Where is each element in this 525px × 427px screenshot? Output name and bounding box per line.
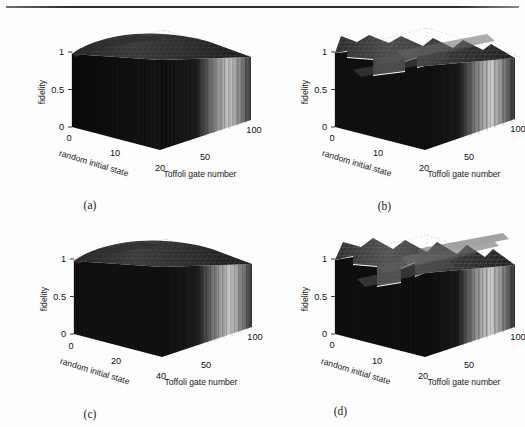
- panel-b-zlabel: fidelity: [300, 79, 310, 104]
- panel-d-tag: (d): [217, 405, 465, 417]
- panel-c-zlabel: fidelity: [39, 286, 49, 311]
- panel-b-bar-block: [335, 34, 515, 150]
- figure-panel-grid: 1 0.5 0 0 fidelity 10 20 random initial …: [0, 10, 525, 427]
- panel-c-svg: 1 0.5 0 0 fidelity 20 40 random initial …: [14, 223, 262, 401]
- panel-a-xtick-100: 100: [246, 125, 261, 135]
- panel-a-origin-tick: 0: [66, 133, 71, 143]
- panel-d-zlabel: fidelity: [300, 286, 310, 311]
- panel-b: 1 0.5 0 0 fidelity 10 20 random initial …: [263, 10, 525, 219]
- panel-a-plot: 1 0.5 0 0 fidelity 10 20 random initial …: [14, 14, 262, 192]
- panel-d-xtick-100: 100: [510, 332, 525, 342]
- panel-c-xtick-50: 50: [201, 360, 211, 370]
- panel-b-plot: 1 0.5 0 0 fidelity 10 20 random initial …: [277, 14, 525, 192]
- panel-c-z-axis: [70, 259, 74, 334]
- panel-c-xtick-100: 100: [247, 332, 262, 342]
- panel-b-origin-tick: 0: [329, 133, 334, 143]
- panel-b-svg: 1 0.5 0 0 fidelity 10 20 random initial …: [277, 14, 525, 192]
- panel-a: 1 0.5 0 0 fidelity 10 20 random initial …: [0, 10, 263, 219]
- panel-a-xtick-50: 50: [200, 152, 210, 162]
- panel-b-ztick-05: 0.5: [314, 85, 327, 95]
- panel-d-ztick-1: 1: [321, 254, 326, 264]
- panel-c-plot: 1 0.5 0 0 fidelity 20 40 random initial …: [14, 223, 262, 401]
- panel-a-z-axis: [68, 52, 72, 127]
- panel-b-ztick-0: 0: [321, 122, 326, 132]
- page-header-rule: [6, 6, 519, 8]
- panel-a-svg: 1 0.5 0 0 fidelity 10 20 random initial …: [14, 14, 262, 192]
- panel-c-origin-tick: 0: [68, 341, 73, 351]
- panel-d-origin-tick: 0: [329, 340, 334, 350]
- panel-d-ztick-0: 0: [321, 329, 326, 339]
- panel-b-z-axis: [331, 52, 335, 127]
- panel-c-ztick-1: 1: [61, 254, 66, 264]
- panel-c-bar-block: [74, 240, 252, 357]
- panel-a-ztick-0: 0: [59, 122, 64, 132]
- panel-d-ztick-05: 0.5: [314, 292, 327, 302]
- panel-b-ytick-10: 10: [372, 148, 382, 158]
- panel-b-xtick-100: 100: [510, 124, 525, 134]
- panel-c-ztick-05: 0.5: [53, 292, 66, 302]
- panel-a-ztick-1: 1: [59, 47, 64, 57]
- panel-a-xlabel: Toffoli gate number: [164, 169, 237, 179]
- panel-c: 1 0.5 0 0 fidelity 20 40 random initial …: [0, 219, 263, 427]
- panel-d-bar-block: [335, 233, 515, 357]
- panel-d-xlabel: Toffoli gate number: [427, 377, 500, 387]
- panel-b-xtick-50: 50: [463, 152, 473, 162]
- panel-d-svg: 1 0.5 0 0 fidelity 10 20 random initial …: [277, 223, 525, 401]
- panel-a-bar-block: [72, 33, 251, 150]
- panel-b-xlabel: Toffoli gate number: [427, 169, 500, 179]
- panel-c-tag: (c): [0, 408, 214, 420]
- panel-a-ytick-10: 10: [110, 148, 120, 158]
- panel-d: 1 0.5 0 0 fidelity 10 20 random initial …: [263, 219, 525, 427]
- panel-c-ytick-20: 20: [111, 356, 121, 366]
- panel-d-z-axis: [331, 259, 335, 334]
- panel-d-ytick-10: 10: [371, 356, 381, 366]
- panel-d-plot: 1 0.5 0 0 fidelity 10 20 random initial …: [277, 223, 525, 401]
- panel-b-tag: (b): [261, 200, 509, 212]
- panel-a-tag: (a): [0, 199, 214, 211]
- panel-a-ztick-05: 0.5: [51, 85, 64, 95]
- panel-c-xlabel: Toffoli gate number: [165, 377, 238, 387]
- panel-c-ztick-0: 0: [61, 329, 66, 339]
- panel-a-zlabel: fidelity: [37, 79, 47, 104]
- panel-b-ztick-1: 1: [321, 47, 326, 57]
- panel-d-xtick-50: 50: [463, 360, 473, 370]
